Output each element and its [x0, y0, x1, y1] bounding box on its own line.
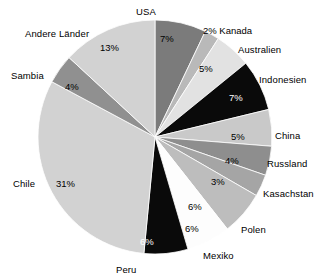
slice-name-label: Mexiko: [203, 250, 234, 261]
pie-chart: USA7%2% KanadaAustralien5%Indonesien7%Ch…: [0, 0, 326, 279]
slice-percent-label: 7%: [229, 92, 243, 103]
slice-percent-label: 6%: [188, 201, 202, 212]
slice-name-label: China: [275, 130, 300, 141]
slice-name-label: Peru: [116, 264, 136, 275]
slice-name-label: Kasachstan: [263, 188, 314, 199]
slice-name-label: Andere Länder: [25, 28, 89, 39]
slice-name-label: Polen: [241, 224, 266, 235]
slice-name-label: Chile: [13, 178, 35, 189]
slice-name-label: USA: [136, 6, 156, 17]
slice-name-label: Sambia: [11, 70, 44, 81]
slice-percent-label: 6%: [140, 236, 154, 247]
slice-percent-label: 6%: [185, 223, 199, 234]
slice-percent-label: 5%: [199, 63, 213, 74]
slice-name-label: Australien: [238, 44, 281, 55]
slice-percent-label: 5%: [231, 131, 245, 142]
slice-percent-label: 13%: [100, 42, 119, 53]
slice-name-label: Indonesien: [259, 74, 306, 85]
slice-name-label: Russland: [267, 158, 307, 169]
slice-percent-label: 31%: [56, 178, 75, 189]
slice-combo-label: 2% Kanada: [203, 25, 252, 36]
slice-percent-label: 4%: [225, 155, 239, 166]
slice-percent-label: 3%: [211, 176, 225, 187]
slice-percent-label: 4%: [65, 81, 79, 92]
slice-percent-label: 7%: [160, 33, 174, 44]
